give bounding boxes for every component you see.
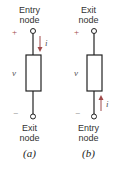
panel-b: Exit node + i v − Entry node (b) [59, 0, 118, 171]
plus-sign: + [74, 27, 79, 37]
minus-sign: − [75, 108, 80, 118]
current-arrow-head [99, 95, 104, 100]
voltage-label: v [74, 68, 78, 78]
caption-b: (b) [59, 147, 118, 159]
current-label: i [45, 38, 48, 48]
voltage-label: v [12, 68, 16, 78]
element-symbol [59, 0, 118, 171]
caption-a: (a) [0, 147, 59, 159]
element-symbol [0, 0, 59, 171]
bottom-node-label-line1: Entry [59, 124, 118, 133]
plus-sign: + [12, 27, 17, 37]
current-arrow-head [38, 47, 43, 52]
bottom-node-label-line2: node [59, 134, 118, 143]
panel-a: Entry node + i v − Exit node (a) [0, 0, 59, 171]
bottom-node-label-line1: Exit [0, 124, 59, 133]
bottom-node-label-line2: node [0, 134, 59, 143]
minus-sign: − [13, 108, 18, 118]
current-label: i [106, 99, 109, 109]
